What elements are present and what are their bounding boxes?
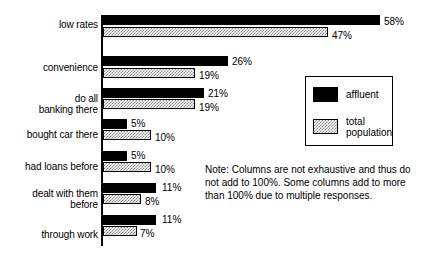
bar-total-population-bought-car-there (103, 130, 151, 140)
bar-affluent-through-work (103, 215, 156, 225)
bar-total-population-convenience (103, 68, 195, 78)
category-label-low-rates: low rates (59, 19, 98, 30)
bar-value-total-population-through-work: 7% (140, 229, 154, 239)
category-label-do-all-banking-there: do all banking there (39, 93, 98, 115)
bar-total-population-do-all-banking-there (103, 99, 195, 109)
bar-value-total-population-convenience: 19% (199, 71, 219, 81)
bar-value-affluent-bought-car-there: 5% (131, 119, 145, 129)
category-label-through-work: through work (41, 229, 98, 240)
chart-legend: affluent total population (305, 76, 393, 146)
category-label-bought-car-there: bought car there (27, 129, 98, 140)
bar-total-population-low-rates (103, 27, 328, 37)
bar-total-population-dealt-with-them-before (103, 194, 141, 204)
bar-affluent-bought-car-there (103, 119, 127, 129)
bar-affluent-low-rates (103, 15, 380, 25)
bar-affluent-convenience (103, 56, 228, 66)
legend-swatch-affluent (313, 87, 338, 102)
bar-affluent-do-all-banking-there (103, 88, 204, 98)
bar-value-total-population-dealt-with-them-before: 8% (145, 197, 159, 207)
legend-label-affluent: affluent (346, 89, 379, 100)
bar-value-total-population-do-all-banking-there: 19% (199, 103, 219, 113)
bar-total-population-through-work (103, 226, 137, 236)
bar-value-affluent-convenience: 26% (232, 57, 252, 67)
category-label-dealt-with-them-before: dealt with them before (32, 188, 98, 210)
legend-label-total-population: total population (346, 116, 392, 138)
chart-note: Note: Columns are not exhaustive and thu… (205, 163, 419, 202)
category-label-convenience: convenience (43, 62, 98, 73)
bar-affluent-dealt-with-them-before (103, 183, 156, 193)
bar-value-affluent-through-work: 11% (162, 215, 181, 225)
bar-affluent-had-loans-before (103, 151, 127, 161)
bar-value-affluent-dealt-with-them-before: 11% (162, 183, 181, 193)
category-label-had-loans-before: had loans before (25, 161, 98, 172)
bar-total-population-had-loans-before (103, 162, 151, 172)
legend-swatch-total-population (313, 119, 338, 134)
bar-value-affluent-do-all-banking-there: 21% (208, 89, 228, 99)
bar-value-affluent-had-loans-before: 5% (131, 151, 145, 161)
bar-chart: low rates convenience do all banking the… (0, 0, 429, 266)
bar-value-affluent-low-rates: 58% (384, 17, 404, 27)
bar-value-total-population-bought-car-there: 10% (155, 133, 175, 143)
bar-value-total-population-low-rates: 47% (332, 31, 352, 41)
bar-value-total-population-had-loans-before: 10% (155, 165, 175, 175)
